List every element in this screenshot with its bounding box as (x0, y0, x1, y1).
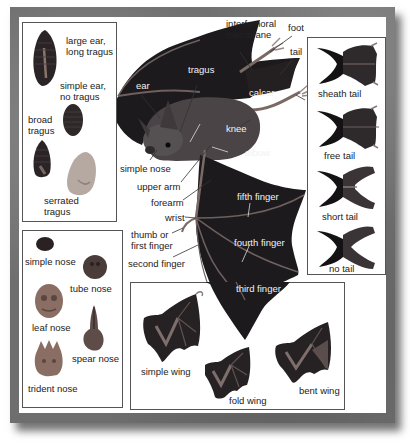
bent-wing-icon (272, 320, 334, 384)
simple-wing-icon (140, 292, 202, 364)
label-fold-wing: fold wing (229, 395, 267, 406)
label-bent-wing: bent wing (299, 385, 340, 396)
label-simple-wing: simple wing (141, 366, 191, 377)
fold-wing-icon (201, 345, 253, 401)
label-third-finger-top: third finger (236, 283, 281, 294)
